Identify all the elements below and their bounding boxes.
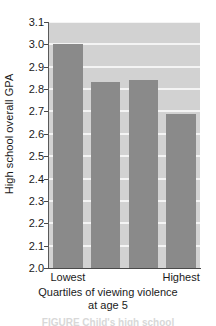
y-axis-tick-label: 2.3 xyxy=(29,195,44,206)
bar xyxy=(53,44,82,268)
x-axis-title: Quartiles of viewing violence at age 5 xyxy=(0,286,216,312)
gridline xyxy=(49,22,200,23)
y-axis-tick-label: 2.1 xyxy=(29,240,44,251)
caption-fragment: FIGURE Child's high school xyxy=(0,317,216,326)
bar xyxy=(166,114,195,268)
x-axis-line xyxy=(48,268,201,269)
y-axis-tick-labels: 2.02.12.22.32.42.52.62.72.82.93.03.1 xyxy=(16,0,44,268)
y-axis-line xyxy=(48,22,49,269)
y-axis-tick-label: 2.2 xyxy=(29,218,44,229)
bar xyxy=(129,80,158,268)
x-axis-tick-labels: LowestHighest xyxy=(49,271,200,285)
y-axis-tick-label: 3.0 xyxy=(29,39,44,50)
y-axis-tick-label: 2.0 xyxy=(29,263,44,274)
y-axis-tick-label: 2.8 xyxy=(29,84,44,95)
x-axis-title-line-2: at age 5 xyxy=(0,299,216,312)
y-axis-title-text: High school overall GPA xyxy=(3,74,15,195)
y-axis-tick-label: 2.7 xyxy=(29,106,44,117)
y-axis-tick-label: 2.4 xyxy=(29,173,44,184)
plot-area xyxy=(49,22,200,268)
y-axis-tick-label: 2.5 xyxy=(29,151,44,162)
x-axis-title-line-1: Quartiles of viewing violence xyxy=(0,286,216,299)
bar xyxy=(91,82,120,268)
y-axis-tick-label: 2.6 xyxy=(29,128,44,139)
y-axis-tick-label: 3.1 xyxy=(29,17,44,28)
x-axis-tick-label: Highest xyxy=(162,271,199,284)
bar-chart-figure: High school overall GPA 2.02.12.22.32.42… xyxy=(0,0,216,326)
x-axis-tick-label: Lowest xyxy=(50,271,85,284)
y-axis-tick-label: 2.9 xyxy=(29,61,44,72)
